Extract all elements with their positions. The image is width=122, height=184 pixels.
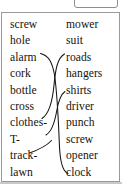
list-item: hangers bbox=[66, 66, 102, 82]
page-bottom-rule bbox=[0, 182, 122, 184]
list-item: cross bbox=[10, 99, 47, 115]
list-item: bottle bbox=[10, 83, 47, 99]
right-word-column: mower suit roads hangers shirts driver p… bbox=[66, 17, 102, 181]
word-columns: screw hole alarm cork bottle cross cloth… bbox=[2, 13, 119, 181]
list-item: shirts bbox=[66, 83, 102, 99]
word-pair-figure: screw hole alarm cork bottle cross cloth… bbox=[1, 12, 120, 182]
list-item: alarm bbox=[10, 50, 47, 66]
list-item: track- bbox=[10, 148, 47, 164]
list-item: clothes- bbox=[10, 115, 47, 131]
list-item: roads bbox=[66, 50, 102, 66]
list-item: hole bbox=[10, 33, 47, 49]
list-item: lawn bbox=[10, 165, 47, 181]
list-item: punch bbox=[66, 115, 102, 131]
list-item: cork bbox=[10, 66, 47, 82]
list-item: suit bbox=[66, 33, 102, 49]
clipped-box-fragment bbox=[74, 0, 118, 8]
list-item: mower bbox=[66, 17, 102, 33]
list-item: T- bbox=[10, 132, 47, 148]
figure-screenshot: screw hole alarm cork bottle cross cloth… bbox=[0, 0, 122, 184]
list-item: screw bbox=[66, 132, 102, 148]
list-item: opener bbox=[66, 148, 102, 164]
list-item: driver bbox=[66, 99, 102, 115]
list-item: clock bbox=[66, 165, 102, 181]
list-item: screw bbox=[10, 17, 47, 33]
left-word-column: screw hole alarm cork bottle cross cloth… bbox=[10, 17, 47, 181]
